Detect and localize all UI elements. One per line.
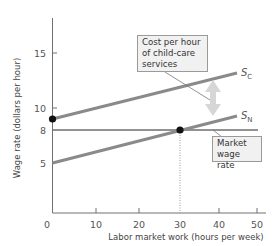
- market-wage-callout: Market wage rate: [212, 136, 262, 162]
- sn-label: SN: [241, 110, 253, 124]
- y-tick-label-8: 8: [40, 125, 46, 136]
- x-tick-label-50: 50: [251, 219, 263, 230]
- sn-supply-line: [53, 116, 238, 163]
- y-tick-label-15: 15: [34, 48, 46, 59]
- y-tick-label-10: 10: [34, 103, 46, 114]
- market-callout-line1: Market: [217, 138, 258, 149]
- x-axis-title: Labor market work (hours per week): [108, 232, 263, 242]
- sc-label: SC: [241, 67, 252, 81]
- x-tick-label-20: 20: [133, 219, 145, 230]
- equilibrium-point: [176, 126, 183, 133]
- y-tick-label-5: 5: [40, 158, 46, 169]
- childcare-cost-callout: Cost per hour of child-care services: [137, 35, 208, 72]
- x-tick-label-10: 10: [90, 219, 102, 230]
- sc-intercept-point: [49, 115, 56, 122]
- y-axis-title: Wage rate (dollars per hour): [12, 58, 22, 178]
- x-tick-label-30: 30: [174, 219, 186, 230]
- market-callout-line2: wage rate: [217, 149, 258, 171]
- sc-supply-line: [53, 73, 238, 119]
- childcare-callout-leader: [165, 72, 210, 100]
- childcare-callout-line1: Cost per hour: [142, 37, 204, 48]
- x-tick-label-0: 0: [44, 219, 50, 230]
- childcare-callout-line3: services: [142, 59, 204, 70]
- childcare-callout-line2: of child-care: [142, 48, 204, 59]
- x-tick-label-40: 40: [213, 219, 225, 230]
